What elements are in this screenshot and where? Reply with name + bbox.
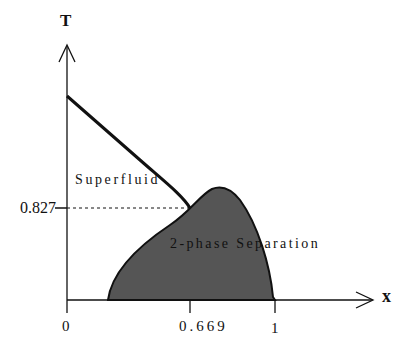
x-tick-label-0: 0: [62, 318, 70, 335]
superfluid-region-label: Superfluid: [75, 172, 160, 188]
two-phase-region-label: 2-phase Separation: [170, 236, 320, 252]
x-axis-label: x: [382, 286, 391, 307]
phase-diagram: T x 0.827 0 0.669 1 Superfluid 2-phase S…: [0, 0, 411, 353]
y-axis-label: T: [60, 11, 71, 31]
diagram-canvas: [0, 0, 411, 353]
y-tick-label: 0.827: [20, 199, 56, 217]
x-tick-label-1: 1: [271, 320, 279, 337]
superfluid-boundary: [67, 96, 190, 208]
x-tick-label-0669: 0.669: [179, 318, 228, 335]
